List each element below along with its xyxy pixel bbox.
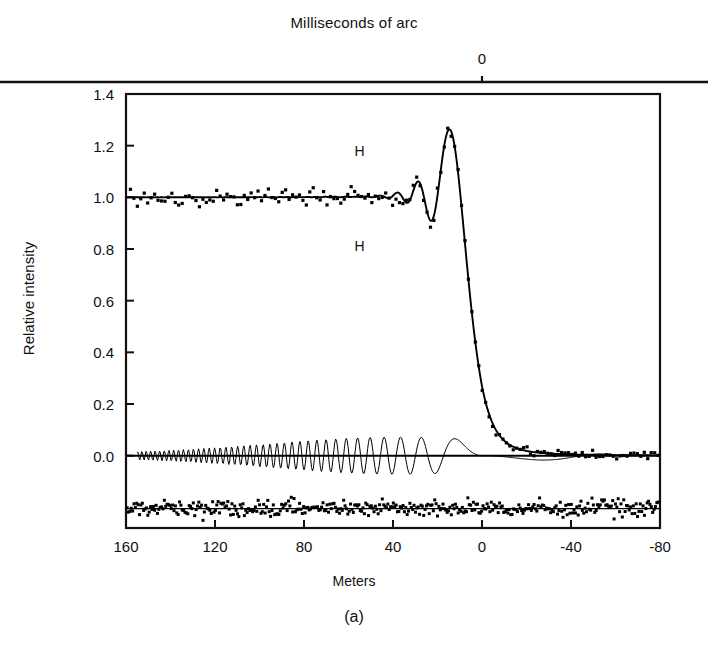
x-axis-ticks [126,520,660,528]
annotation-h: H [355,238,365,254]
figure-occultation-lightcurve: Milliseconds of arc Relative intensity M… [0,0,708,651]
y-axis-ticks [126,94,134,456]
plot-canvas [0,0,708,651]
fitted-model-curve [126,129,660,455]
annotation-h: H [355,143,365,159]
top-axis [0,73,708,82]
observed-data-points [129,127,660,461]
